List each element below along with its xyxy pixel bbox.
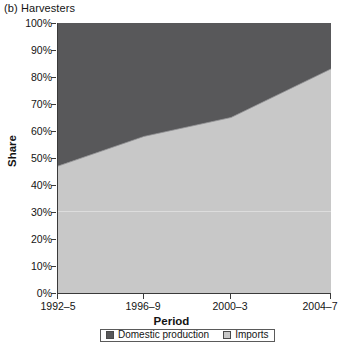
legend-label: Domestic production [118,330,209,340]
x-tick-label: 1992–5 [40,300,75,312]
x-tick-label: 1996–9 [125,300,160,312]
y-tick-label: 70% [8,99,52,109]
y-tick-mark [51,104,56,105]
x-tick-mark [330,294,331,299]
y-tick-label: 30% [8,207,52,217]
y-tick-label: 90% [8,45,52,55]
area-chart-svg [58,23,331,293]
x-axis-title: Period [0,315,343,327]
y-axis-title: Share [6,116,18,186]
chart-figure: (b) Harvesters 100% 90% 80% 70% 60% 50% … [0,0,343,344]
legend-entry-domestic-production: Domestic production [106,330,209,340]
y-tick-mark [51,266,56,267]
y-tick-mark [51,131,56,132]
legend-swatch-domestic-icon [106,331,114,339]
y-tick-mark [51,23,56,24]
y-tick-mark [51,239,56,240]
y-tick-mark [51,50,56,51]
legend-entry-imports: Imports [223,330,268,340]
x-tick-mark [57,294,58,299]
x-tick-label: 2004–7 [302,300,337,312]
y-tick-label: 100% [8,18,52,28]
x-tick-label: 2000–3 [212,300,247,312]
x-tick-mark [143,294,144,299]
y-tick-label: 0% [8,288,52,298]
legend-swatch-imports-icon [223,331,231,339]
plot-area [57,23,331,294]
chart-legend: Domestic production Imports [100,329,275,342]
legend-label: Imports [235,330,268,340]
y-tick-label: 10% [8,261,52,271]
y-tick-label: 20% [8,234,52,244]
y-tick-mark [51,77,56,78]
y-tick-mark [51,158,56,159]
y-tick-mark [51,185,56,186]
y-tick-mark [51,293,56,294]
x-tick-mark [230,294,231,299]
y-tick-mark [51,212,56,213]
y-tick-label: 80% [8,72,52,82]
